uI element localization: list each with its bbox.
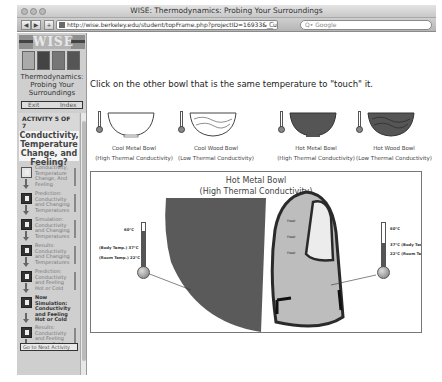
- right-thermometer: [381, 222, 386, 270]
- pencil-icon: [21, 193, 32, 204]
- arrow-down-icon: [25, 231, 27, 238]
- hand-card-icon: [37, 51, 50, 70]
- activity-counter: ACTIVITY 5 OF 7: [19, 113, 79, 131]
- sidebar-scrollbar[interactable]: [80, 113, 86, 375]
- pencil-icon: [21, 327, 32, 338]
- thermometer-icon: [180, 111, 183, 127]
- forward-button[interactable]: ▶: [31, 20, 41, 30]
- wise-logo: WISE: [19, 35, 85, 49]
- object-card-icon: [52, 51, 65, 70]
- svg-text:Heat: Heat: [287, 235, 296, 239]
- bowl-hot-wood[interactable]: Hot Wood Bowl (Low Thermal Conductivity): [354, 105, 434, 167]
- right-thermometer-bulb: [377, 266, 390, 279]
- arrow-down-icon: [25, 205, 27, 212]
- url-field[interactable]: http://wise.berkeley.edu/student/topFram…: [56, 20, 278, 30]
- thermometer-icon: [280, 111, 283, 127]
- arrow-down-icon: [25, 179, 27, 186]
- back-button[interactable]: ◀: [21, 20, 31, 30]
- wise-sidebar: WISE Thermodynamics: Probing Your Surrou…: [17, 33, 87, 375]
- svg-text:Heat: Heat: [287, 251, 296, 255]
- activity-box: ACTIVITY 5 OF 7 Conductivity, Temperatur…: [19, 113, 79, 161]
- wood-bowl-icon: [188, 111, 238, 139]
- left-thermometer-bulb: [137, 266, 150, 279]
- project-images: [22, 51, 84, 71]
- metal-bowl-icon: [106, 111, 156, 139]
- exit-link[interactable]: Exit: [28, 102, 39, 108]
- step-item[interactable]: Prediction: Conductivity and Feeling Hot…: [19, 268, 79, 294]
- exit-index-bar: Exit Index: [21, 101, 83, 109]
- step-item[interactable]: Results: Conductivity and Changing Tempe…: [19, 242, 79, 268]
- step-item[interactable]: Conductivity, Temperature Change, And Fe…: [19, 164, 79, 190]
- arrow-down-icon: [25, 313, 27, 320]
- step-item[interactable]: Simulation: Conductivity and Changing Te…: [19, 216, 79, 242]
- arrow-down-icon: [25, 283, 27, 290]
- browser-window: WISE: Thermodynamics: Probing Your Surro…: [17, 5, 436, 375]
- bowl-cool-metal[interactable]: Cool Metal Bowl (High Thermal Conductivi…: [94, 105, 174, 167]
- step-list: Conductivity, Temperature Change, And Fe…: [19, 164, 79, 350]
- index-link[interactable]: Index: [60, 102, 77, 108]
- pencil-icon: [21, 271, 32, 282]
- bowl-cool-wood[interactable]: Cool Wood Bowl (Low Thermal Conductivity…: [176, 105, 256, 167]
- next-activity-button[interactable]: Go to Next Activity: [20, 343, 78, 351]
- note-icon: [21, 167, 32, 178]
- title-bar: WISE: Thermodynamics: Probing Your Surro…: [17, 5, 436, 18]
- step-item[interactable]: Prediction: Conductivity and Changing Te…: [19, 190, 79, 216]
- left-thermometer: [141, 222, 146, 270]
- favicon-icon: [59, 22, 65, 28]
- thermometer-icon: [98, 111, 101, 127]
- url-text: http://wise.berkeley.edu/student/topFram…: [67, 21, 278, 28]
- wood-bowl-icon: [366, 111, 416, 139]
- spoon-card-icon: [67, 51, 80, 70]
- thermometer-card-icon: [22, 51, 35, 70]
- step-item-current[interactable]: Now Simulation: Conductivity and Feeling…: [19, 294, 79, 324]
- activity-title: Conductivity, Temperature Change, and Fe…: [19, 131, 79, 167]
- metal-bowl-icon: [288, 111, 338, 139]
- svg-text:Heat: Heat: [287, 219, 296, 223]
- add-bookmark-button[interactable]: +: [44, 20, 54, 30]
- arrow-down-icon: [25, 257, 27, 264]
- content-area: Click on the other bowl that is the same…: [88, 33, 436, 375]
- search-input[interactable]: Q• Google: [300, 20, 432, 30]
- flask-icon: [21, 219, 32, 230]
- pencil-icon: [21, 245, 32, 256]
- flask-icon: [21, 297, 32, 308]
- thermometer-icon: [358, 111, 361, 127]
- window-title: WISE: Thermodynamics: Probing Your Surro…: [17, 6, 436, 15]
- project-title: Thermodynamics: Probing Your Surrounding…: [17, 73, 87, 97]
- browser-toolbar: ◀ ▶ + http://wise.berkeley.edu/student/t…: [17, 18, 436, 32]
- simulation-panel: Hot Metal Bowl (High Thermal Conductivit…: [90, 171, 422, 333]
- reload-icon[interactable]: C: [269, 21, 274, 29]
- instruction-text: Click on the other bowl that is the same…: [90, 79, 373, 89]
